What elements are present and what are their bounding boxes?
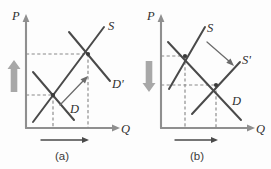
y-axis-label: P: [11, 9, 20, 23]
demand-curve-label: D: [69, 102, 79, 116]
x-axis-label: Q: [256, 122, 265, 136]
panel-b-caption: (b): [190, 150, 204, 162]
quantity-arrowhead: [82, 137, 89, 143]
demand-curve-label: D: [231, 94, 241, 108]
panel-b-svg: S S' D P: [135, 0, 270, 169]
panel-a-svg: S D D' P: [0, 0, 135, 169]
supply-curve: [33, 27, 104, 122]
price-block-arrow-shape: [143, 61, 156, 92]
supply-shift-arrow: [207, 42, 234, 66]
supply-curve-label: S: [108, 19, 115, 33]
panel-a-caption: (a): [55, 150, 69, 162]
initial-equilibrium-dot: [183, 54, 187, 58]
panel-a: S D D' P: [0, 0, 135, 169]
panel-b: S S' D P: [135, 0, 270, 169]
price-block-arrow-shape: [8, 60, 21, 92]
supply-shift-arrow-shaft: [207, 42, 230, 62]
price-block-arrow-up: [8, 60, 21, 92]
demand-curve: [168, 42, 241, 120]
quantity-arrow: [41, 137, 89, 143]
panel-b-guides-new: [161, 85, 216, 128]
new-equilibrium-dot: [86, 52, 90, 56]
x-axis-label: Q: [121, 122, 130, 136]
supply-curve-label: S: [207, 21, 214, 35]
demand-shifted-curve: [69, 32, 110, 81]
supply-curve: [169, 27, 205, 89]
figure-root: S D D' P: [0, 0, 271, 169]
demand-shifted-curve-label: D': [111, 77, 124, 91]
quantity-arrow: [175, 137, 218, 143]
new-equilibrium-dot: [214, 83, 218, 87]
initial-equilibrium-dot: [51, 93, 55, 97]
quantity-arrowhead: [211, 137, 218, 143]
y-axis-arrowhead: [158, 14, 165, 22]
supply-shifted-curve-label: S': [242, 53, 251, 67]
x-axis-arrowhead: [112, 125, 120, 132]
y-axis-label: P: [146, 9, 155, 23]
x-axis-arrowhead: [247, 125, 255, 132]
price-block-arrow-down: [143, 61, 156, 92]
y-axis-arrowhead: [23, 14, 30, 22]
